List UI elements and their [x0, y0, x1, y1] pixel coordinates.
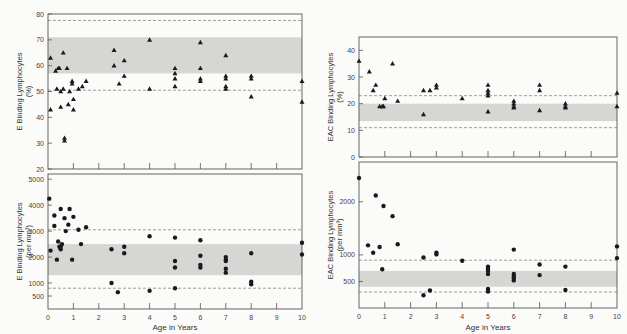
data-point-circle — [56, 239, 60, 243]
data-point-circle — [198, 265, 202, 269]
panel-eac-percent: 010203040EAC Binding Lymphocytes(%) — [326, 37, 620, 161]
data-point-circle — [563, 288, 567, 292]
x-tick-label: 6 — [198, 314, 202, 321]
data-point-triangle — [486, 82, 491, 86]
data-point-triangle — [71, 107, 76, 111]
data-point-triangle — [76, 86, 81, 90]
data-point-circle — [537, 262, 541, 266]
data-point-circle — [512, 247, 516, 251]
y-axis-unit: (%) — [335, 91, 344, 103]
data-point-triangle — [61, 86, 66, 90]
y-axis-unit: (per mm³) — [24, 225, 33, 258]
y-tick-label: 5000 — [28, 176, 44, 183]
x-tick-label: 10 — [613, 313, 621, 320]
y-axis-title: E Binding Lymphocytes — [15, 202, 24, 280]
data-point-triangle — [67, 89, 72, 93]
data-point-circle — [48, 248, 52, 252]
figure-canvas: 20304050607080E Binding Lymphocytes(%) 5… — [0, 0, 627, 334]
x-tick-label: 8 — [563, 313, 567, 320]
data-point-circle — [52, 224, 56, 228]
data-point-circle — [62, 216, 66, 220]
x-tick-label: 3 — [434, 313, 438, 320]
data-point-circle — [64, 229, 68, 233]
y-tick-label: 1000 — [28, 280, 44, 287]
data-point-circle — [563, 264, 567, 268]
data-point-circle — [173, 265, 177, 269]
x-tick-label: 1 — [383, 313, 387, 320]
panel-e-absolute: 50010002000300040005000012345678910E Bin… — [15, 174, 306, 321]
x-tick-label: 0 — [46, 314, 50, 321]
data-point-circle — [55, 257, 59, 261]
data-point-circle — [198, 238, 202, 242]
data-point-triangle — [122, 73, 127, 77]
data-point-circle — [122, 251, 126, 255]
data-point-circle — [434, 252, 438, 256]
x-tick-label: 10 — [298, 314, 306, 321]
data-point-circle — [486, 272, 490, 276]
y-tick-label: 60 — [36, 62, 44, 69]
y-tick-label: 80 — [36, 11, 44, 18]
data-point-circle — [173, 259, 177, 263]
data-point-triangle — [117, 81, 122, 85]
data-point-triangle — [54, 86, 59, 90]
y-tick-label: 20 — [36, 166, 44, 173]
x-axis-title-right: Age in Years — [466, 323, 511, 332]
data-point-triangle — [421, 88, 426, 92]
data-point-circle — [84, 225, 88, 229]
y-tick-label: 1000 — [339, 251, 355, 258]
data-point-triangle — [367, 69, 372, 73]
x-tick-label: 7 — [538, 313, 542, 320]
x-tick-label: 0 — [357, 313, 361, 320]
x-tick-label: 5 — [173, 314, 177, 321]
y-tick-label: 10 — [347, 127, 355, 134]
x-tick-label: 4 — [460, 313, 464, 320]
data-point-circle — [381, 204, 385, 208]
x-axis-title-left: Age in Years — [153, 323, 198, 332]
data-point-triangle — [58, 104, 63, 108]
data-point-triangle — [537, 82, 542, 86]
x-tick-label: 1 — [71, 314, 75, 321]
data-point-triangle — [249, 94, 254, 98]
data-point-triangle — [173, 76, 178, 80]
data-point-circle — [59, 207, 63, 211]
y-tick-label: 40 — [36, 114, 44, 121]
data-point-circle — [198, 254, 202, 258]
data-point-circle — [76, 228, 80, 232]
data-point-circle — [173, 286, 177, 290]
data-point-triangle — [382, 96, 387, 100]
data-point-circle — [224, 270, 228, 274]
y-axis-title: EAC Binding Lymphocytes — [326, 52, 335, 141]
y-tick-label: 4000 — [28, 202, 44, 209]
data-point-circle — [300, 241, 304, 245]
x-tick-label: 5 — [486, 313, 490, 320]
data-point-circle — [377, 245, 381, 249]
data-point-triangle — [427, 88, 432, 92]
data-point-circle — [421, 255, 425, 259]
y-axis-unit: (%) — [24, 85, 33, 97]
data-point-circle — [122, 244, 126, 248]
data-point-triangle — [147, 86, 152, 90]
data-point-circle — [615, 244, 619, 248]
y-tick-label: 20 — [347, 100, 355, 107]
data-point-circle — [396, 242, 400, 246]
data-point-circle — [249, 282, 253, 286]
x-tick-label: 8 — [249, 314, 253, 321]
panel-e-percent: 20304050607080E Binding Lymphocytes(%) — [15, 11, 305, 173]
x-tick-label: 2 — [409, 313, 413, 320]
data-point-circle — [357, 176, 361, 180]
x-tick-label: 2 — [97, 314, 101, 321]
y-tick-label: 30 — [347, 74, 355, 81]
y-tick-label: 70 — [36, 36, 44, 43]
data-point-circle — [173, 235, 177, 239]
data-point-triangle — [460, 96, 465, 100]
data-point-circle — [486, 289, 490, 293]
y-axis-title: EAC Binding Lymphocytes — [326, 190, 335, 279]
data-point-triangle — [80, 84, 85, 88]
data-point-circle — [52, 213, 56, 217]
data-point-circle — [249, 251, 253, 255]
x-tick-label: 3 — [122, 314, 126, 321]
data-point-circle — [147, 289, 151, 293]
data-point-triangle — [300, 79, 305, 83]
data-point-circle — [70, 257, 74, 261]
data-point-triangle — [71, 97, 76, 101]
